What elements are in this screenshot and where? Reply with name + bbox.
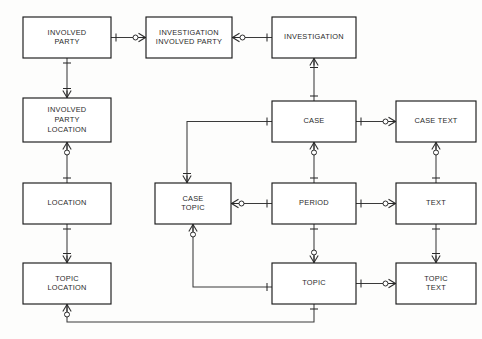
- entity-label-investigation-involved-party: INVOLVED PARTY: [156, 37, 222, 46]
- er-diagram-canvas: INVOLVEDPARTYINVESTIGATIONINVOLVED PARTY…: [0, 0, 482, 339]
- entity-label-topic: TOPIC: [302, 278, 326, 287]
- cardinality-rel-topic-topictext-to: [383, 279, 396, 287]
- entity-topic[interactable]: TOPIC: [272, 263, 356, 304]
- cardinality-rel-casetext-text-from: [432, 143, 440, 156]
- entity-case-text[interactable]: CASE TEXT: [396, 101, 476, 142]
- entity-involved-party-location[interactable]: INVOLVEDPARTYLOCATION: [23, 98, 111, 142]
- entity-label-period: PERIOD: [299, 198, 329, 207]
- entity-boxes-layer: INVOLVEDPARTYINVESTIGATIONINVOLVED PARTY…: [23, 17, 476, 304]
- link-rel-toploc-topic: [67, 304, 314, 322]
- entity-label-involved-party: PARTY: [54, 37, 79, 46]
- cardinality-rel-casetopic-period-from: [232, 199, 245, 207]
- entity-label-case-topic: TOPIC: [181, 203, 205, 212]
- entity-label-involved-party-location: INVOLVED: [48, 105, 87, 114]
- cardinality-rel-ip-iip-to: [133, 33, 146, 41]
- entity-label-case-text: CASE TEXT: [414, 116, 457, 125]
- entity-location[interactable]: LOCATION: [23, 183, 111, 224]
- entity-topic-location[interactable]: TOPICLOCATION: [23, 263, 111, 304]
- entity-label-involved-party-location: PARTY: [54, 115, 79, 124]
- entity-label-involved-party: INVOLVED: [48, 28, 87, 37]
- entity-involved-party[interactable]: INVOLVEDPARTY: [23, 17, 111, 58]
- entity-case-topic[interactable]: CASETOPIC: [155, 183, 231, 224]
- entity-label-topic-text: TOPIC: [424, 274, 448, 283]
- cardinality-rel-period-text-to: [383, 199, 396, 207]
- entity-label-text: TEXT: [426, 198, 446, 207]
- er-diagram-svg: INVOLVEDPARTYINVESTIGATIONINVOLVED PARTY…: [0, 0, 482, 339]
- relationship-lines-layer: [67, 38, 436, 323]
- entity-label-location: LOCATION: [47, 198, 86, 207]
- entity-label-involved-party-location: LOCATION: [47, 125, 86, 134]
- entity-label-case: CASE: [303, 116, 324, 125]
- entity-topic-text[interactable]: TOPICTEXT: [396, 263, 476, 304]
- cardinality-rel-toploc-topic-from: [63, 305, 71, 318]
- entity-label-investigation-involved-party: INVESTIGATION: [159, 28, 219, 37]
- cardinality-rel-period-topic-to: [310, 250, 318, 263]
- cardinality-rel-casetopic-topic-from: [189, 225, 197, 238]
- entity-investigation[interactable]: INVESTIGATION: [272, 17, 356, 58]
- cardinality-rel-case-casetext-to: [383, 117, 396, 125]
- cardinality-rel-case-period-from: [310, 143, 318, 156]
- entity-text[interactable]: TEXT: [396, 183, 476, 224]
- entity-period[interactable]: PERIOD: [272, 183, 356, 224]
- entity-label-topic-text: TEXT: [426, 283, 446, 292]
- cardinality-rel-iip-inv-from: [233, 33, 246, 41]
- link-rel-case-casetopic: [187, 122, 272, 184]
- cardinality-notation-layer: [63, 33, 440, 317]
- entity-label-topic-location: TOPIC: [55, 274, 79, 283]
- entity-investigation-involved-party[interactable]: INVESTIGATIONINVOLVED PARTY: [146, 17, 232, 58]
- cardinality-rel-ipl-loc-from: [63, 143, 71, 156]
- entity-label-topic-location: LOCATION: [47, 283, 86, 292]
- entity-label-case-topic: CASE: [182, 194, 203, 203]
- entity-label-investigation: INVESTIGATION: [284, 32, 344, 41]
- entity-case[interactable]: CASE: [272, 101, 356, 142]
- link-rel-casetopic-topic: [193, 224, 272, 287]
